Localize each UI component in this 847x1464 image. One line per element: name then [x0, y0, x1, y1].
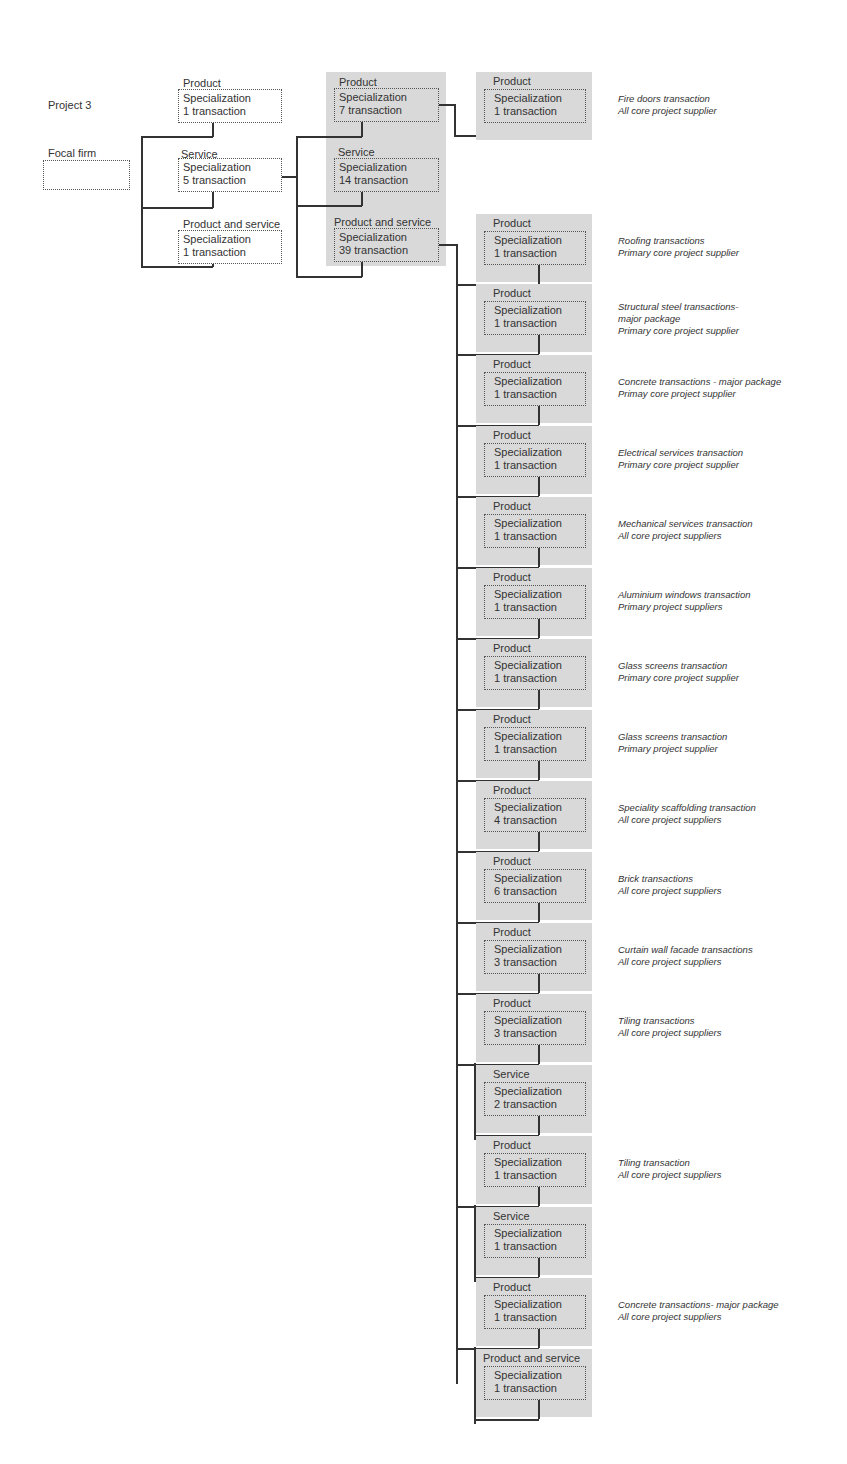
description-line: Glass screens transaction — [618, 731, 727, 743]
l3-box: Specialization1 transaction — [484, 1153, 586, 1187]
description-line: Primary core project supplier — [618, 672, 739, 684]
l3-count: 1 transaction — [494, 247, 581, 260]
l3-spec: Specialization — [494, 1369, 581, 1382]
l3-type: Product — [493, 217, 531, 230]
l3-count: 4 transaction — [494, 814, 581, 827]
transaction-description: Concrete transactions- major packageAll … — [618, 1299, 779, 1323]
description-line: Primary project supplier — [618, 743, 727, 755]
l3-box: Specialization1 transaction — [484, 727, 586, 761]
l1-spec: Specialization — [183, 92, 277, 105]
l2-spec: Specialization — [339, 161, 434, 174]
l3-spec: Specialization — [494, 446, 581, 459]
connector-line — [538, 903, 540, 922]
transaction-description: Brick transactionsAll core project suppl… — [618, 873, 722, 897]
l3-type: Product — [493, 784, 531, 797]
connector-line — [538, 1258, 540, 1277]
connector-line — [296, 205, 362, 207]
connector-line — [538, 335, 540, 354]
l1-count: 1 transaction — [183, 105, 277, 118]
l3-type: Product — [493, 500, 531, 513]
l3-spec: Specialization — [494, 943, 581, 956]
l3-spec: Specialization — [494, 659, 581, 672]
description-line: Roofing transactions — [618, 235, 739, 247]
l2-spec: Specialization — [339, 91, 434, 104]
description-line: Primary core project supplier — [618, 247, 739, 259]
l3-spec: Specialization — [494, 517, 581, 530]
connector-line — [474, 1063, 476, 1140]
l3-box: Specialization6 transaction — [484, 869, 586, 903]
transaction-description: Aluminium windows transactionPrimary pro… — [618, 589, 751, 613]
l3-type: Service — [493, 1210, 530, 1223]
description-line: All core project suppliers — [618, 1311, 779, 1323]
description-line: All core project suppliers — [618, 1169, 722, 1181]
l3-box: Specialization1 transaction — [484, 514, 586, 548]
l1-box: Specialization 1 transaction — [178, 89, 282, 123]
connector-line — [141, 266, 213, 268]
connector-line — [538, 1116, 540, 1135]
l3-count: 1 transaction — [494, 105, 581, 118]
l3-type: Product — [493, 1281, 531, 1294]
l3-count: 1 transaction — [494, 1311, 581, 1324]
description-line: All core project suppliers — [618, 530, 753, 542]
l3-spec: Specialization — [494, 375, 581, 388]
l3-box: Specialization2 transaction — [484, 1082, 586, 1116]
l3-spec: Specialization — [494, 801, 581, 814]
l3-count: 1 transaction — [494, 388, 581, 401]
connector-line — [141, 136, 143, 266]
l3-spec: Specialization — [494, 1156, 581, 1169]
trunk-line — [456, 244, 458, 1384]
l3-box: Specialization1 transaction — [484, 1295, 586, 1329]
connector-line — [212, 264, 214, 267]
description-line: Primary core project supplier — [618, 459, 743, 471]
l3-type: Product — [493, 287, 531, 300]
l3-count: 1 transaction — [494, 1169, 581, 1182]
connector-line — [296, 136, 362, 138]
connector-line — [474, 1347, 476, 1424]
connector-line — [141, 207, 213, 209]
connector-line — [141, 136, 213, 138]
l3-box: Specialization1 transaction — [484, 231, 586, 265]
l3-spec: Specialization — [494, 1227, 581, 1240]
l3-count: 6 transaction — [494, 885, 581, 898]
l3-spec: Specialization — [494, 872, 581, 885]
description-line: Electrical services transaction — [618, 447, 743, 459]
l3-box: Specialization1 transaction — [484, 1366, 586, 1400]
transaction-description: Tiling transactionsAll core project supp… — [618, 1015, 722, 1039]
l3-type: Product — [493, 855, 531, 868]
connector-line — [538, 406, 540, 425]
l2-box: Specialization 14 transaction — [334, 158, 439, 192]
transaction-description: Glass screens transactionPrimary core pr… — [618, 660, 739, 684]
l3-count: 1 transaction — [494, 672, 581, 685]
connector-line — [361, 122, 363, 137]
l2-box: Specialization 7 transaction — [334, 88, 439, 122]
l3-spec: Specialization — [494, 1298, 581, 1311]
l3-count: 3 transaction — [494, 1027, 581, 1040]
description-line: Glass screens transaction — [618, 660, 739, 672]
connector-line — [361, 192, 363, 206]
transaction-description: Speciality scaffolding transactionAll co… — [618, 802, 756, 826]
l3-box: Specialization1 transaction — [484, 89, 586, 123]
transaction-description: Fire doors transactionAll core project s… — [618, 93, 717, 117]
l1-spec: Specialization — [183, 233, 277, 246]
l3-count: 1 transaction — [494, 459, 581, 472]
description-line: Aluminium windows transaction — [618, 589, 751, 601]
l2-spec: Specialization — [339, 231, 434, 244]
l3-box: Specialization4 transaction — [484, 798, 586, 832]
transaction-description: Concrete transactions - major packagePri… — [618, 376, 781, 400]
connector-line — [474, 1205, 476, 1282]
connector-line — [538, 1187, 540, 1206]
connector-line — [538, 477, 540, 496]
l3-type: Product — [493, 642, 531, 655]
l3-type: Product — [493, 926, 531, 939]
focal-firm-label: Focal firm — [48, 147, 96, 160]
l2-box: Specialization 39 transaction — [334, 228, 439, 262]
l3-spec: Specialization — [494, 1014, 581, 1027]
l1-box: Specialization 1 transaction — [178, 230, 282, 264]
l3-count: 1 transaction — [494, 530, 581, 543]
transaction-description: Mechanical services transactionAll core … — [618, 518, 753, 542]
l3-box: Specialization3 transaction — [484, 940, 586, 974]
l2-count: 14 transaction — [339, 174, 434, 187]
l3-box: Specialization1 transaction — [484, 656, 586, 690]
description-line: Tiling transactions — [618, 1015, 722, 1027]
connector-line — [439, 244, 457, 246]
